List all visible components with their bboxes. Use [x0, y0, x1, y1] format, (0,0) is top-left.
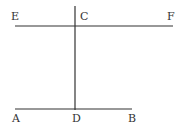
- label-e: E: [11, 10, 19, 23]
- geometry-diagram: E C F A D B: [0, 0, 181, 137]
- label-c: C: [80, 10, 88, 23]
- label-d: D: [72, 112, 81, 125]
- label-a: A: [11, 112, 21, 125]
- label-b: B: [128, 112, 136, 125]
- label-f: F: [167, 10, 175, 23]
